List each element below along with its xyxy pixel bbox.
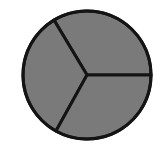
pie-slice-group xyxy=(23,11,151,139)
pie-chart-figure xyxy=(0,0,162,156)
pie-chart-svg xyxy=(0,0,162,156)
